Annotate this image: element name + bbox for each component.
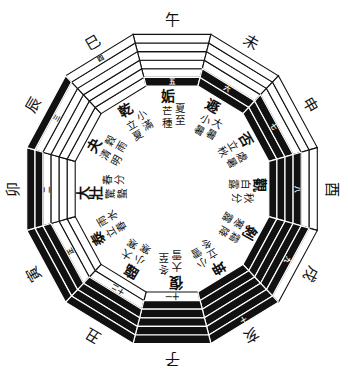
hexagram-name: 乾 [114,101,133,119]
branch-label: 午 [165,13,180,28]
twelve-sovereign-hexagrams-diagram: 午姤芒種夏至五未遯小暑大暑六申否立秋處暑七酉觀白露秋分八戌剝寒露霜降九亥坤立冬小… [0,0,348,374]
month-mark: 十一 [165,293,179,300]
solar-term: 春分 [102,176,126,187]
month-mark: 四 [97,54,106,63]
solar-term: 夏至 [174,103,185,127]
hexagram-name: 大壯 [76,187,102,201]
hexagram-name: 否 [237,128,255,147]
month-mark: 十二 [110,283,125,296]
month-mark: 二 [44,186,51,193]
solar-term: 秋分 [230,192,254,203]
branch-label: 寅 [24,263,44,283]
branch-label: 丑 [82,325,102,345]
month-mark: 三 [52,113,61,122]
month-mark: 八 [294,186,301,193]
hexagram-name: 觀 [254,177,267,191]
month-mark: 正 [66,247,75,256]
month-mark: 六 [222,84,231,93]
branch-label: 酉 [323,182,338,197]
branch-label: 申 [299,94,319,114]
month-mark: 九 [283,255,292,264]
labels-layer: 午姤芒種夏至五未遯小暑大暑六申否立秋處暑七酉觀白露秋分八戌剝寒露霜降九亥坤立冬小… [0,0,348,374]
hexagram-name: 坤 [211,259,230,277]
branch-label: 戌 [299,263,319,283]
branch-label: 巳 [82,32,102,52]
month-mark: 五 [169,78,176,85]
hexagram-name: 復 [170,277,184,290]
branch-label: 辰 [24,94,44,114]
hexagram-name: 泰 [89,231,107,250]
solar-term: 驚蟄 [105,190,129,201]
hexagram-name: 剝 [242,222,260,241]
hexagram-name: 姤 [160,89,174,102]
hexagram-name: 遯 [203,96,222,114]
solar-term: 大雪 [172,248,183,272]
branch-label: 亥 [241,325,261,345]
solar-term: 芒種 [161,106,172,130]
solar-term: 白露 [227,178,251,189]
month-mark: 十 [238,315,247,324]
month-mark: 七 [269,122,278,131]
branch-label: 子 [165,351,180,366]
solar-term: 冬至 [159,251,170,275]
hexagram-name: 臨 [123,264,142,282]
branch-label: 卯 [6,182,21,197]
branch-label: 未 [241,32,261,52]
